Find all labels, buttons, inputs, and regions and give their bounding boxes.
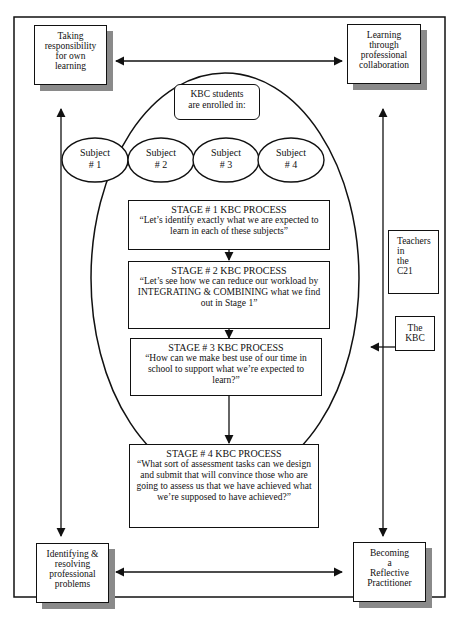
subject-label: Subject xyxy=(131,147,191,159)
subject-number: # 4 xyxy=(261,159,321,171)
stage-text: “How can we make best use of our time in… xyxy=(145,353,307,385)
subject-number: # 2 xyxy=(131,159,191,171)
side-text: KBC xyxy=(396,333,434,343)
stage-4-box: STAGE # 4 KBC PROCESS “What sort of asse… xyxy=(129,444,319,528)
teachers-c21-box: Teachers in the C21 xyxy=(388,230,439,294)
side-text: C21 xyxy=(397,266,438,276)
stage-title: STAGE # 1 KBC PROCESS xyxy=(135,204,323,215)
subject-4: Subject # 4 xyxy=(261,147,321,171)
stage-2-box: STAGE # 2 KBC PROCESS “Let’s see how we … xyxy=(128,261,330,329)
stage-title: STAGE # 4 KBC PROCESS xyxy=(135,448,313,459)
stage-title: STAGE # 3 KBC PROCESS xyxy=(139,342,313,353)
kbc-box: The KBC xyxy=(395,316,435,351)
stage-text: “What sort of assessment tasks can we de… xyxy=(136,459,311,502)
stage-3-box: STAGE # 3 KBC PROCESS “How can we make b… xyxy=(130,338,322,396)
side-text: in xyxy=(397,246,438,256)
subject-3: Subject # 3 xyxy=(196,147,256,171)
stage-text: “Let’s see how we can reduce our workloa… xyxy=(138,276,320,308)
subject-label: Subject xyxy=(261,147,321,159)
subject-number: # 1 xyxy=(65,159,125,171)
subject-2: Subject # 2 xyxy=(131,147,191,171)
subject-number: # 3 xyxy=(196,159,256,171)
subject-label: Subject xyxy=(196,147,256,159)
side-text: Teachers xyxy=(397,236,438,246)
subject-1: Subject # 1 xyxy=(65,147,125,171)
side-text: the xyxy=(397,256,438,266)
stage-text: “Let’s identify exactly what we are expe… xyxy=(139,215,318,236)
stage-1-box: STAGE # 1 KBC PROCESS “Let’s identify ex… xyxy=(128,200,330,250)
subject-label: Subject xyxy=(65,147,125,159)
stage-title: STAGE # 2 KBC PROCESS xyxy=(135,265,323,276)
side-text: The xyxy=(396,323,434,333)
